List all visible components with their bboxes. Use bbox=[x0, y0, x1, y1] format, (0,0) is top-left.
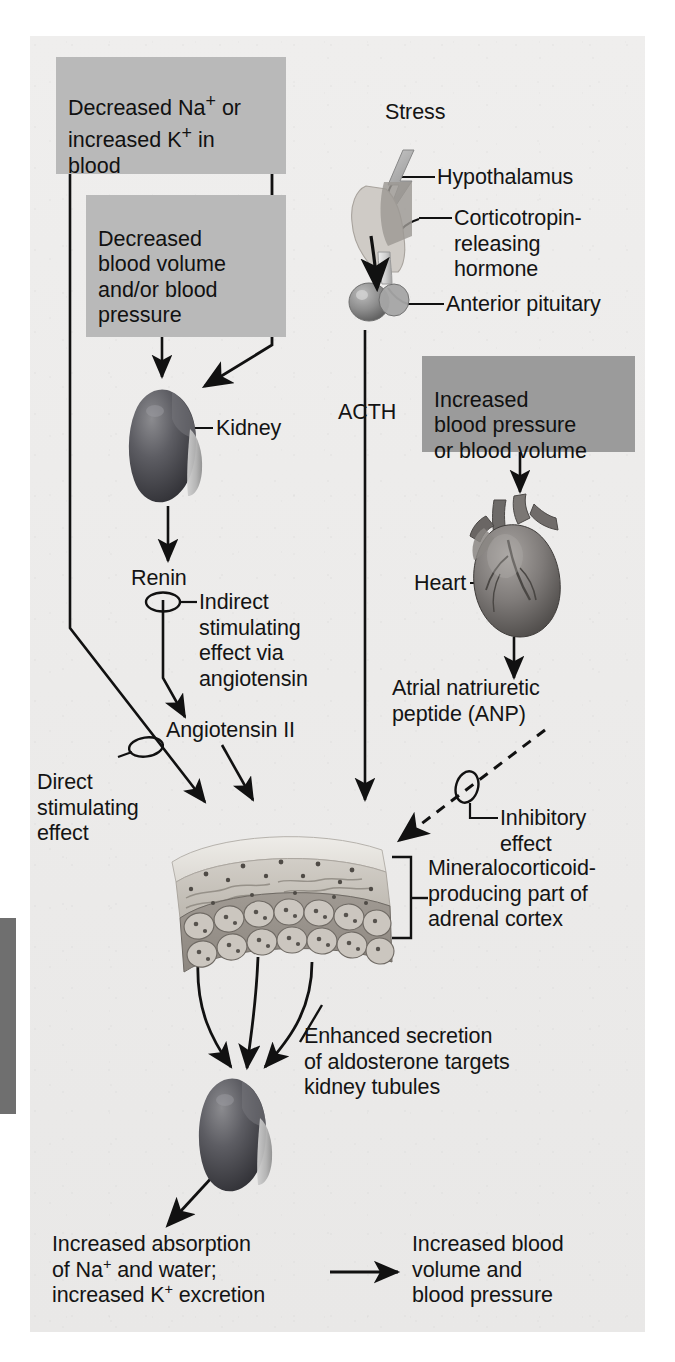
arrow-angiotensin-to-adrenal bbox=[222, 745, 253, 800]
label-adrenal-cortex: Mineralocorticoid- producing part of adr… bbox=[428, 856, 596, 933]
box-text-increased-bp: Increased blood pressure or blood volume bbox=[434, 388, 587, 463]
label-kidney-top: Kidney bbox=[216, 416, 281, 442]
box-text-blood-volume: Decreased blood volume and/or blood pres… bbox=[98, 227, 226, 328]
label-angiotensin-ii: Angiotensin II bbox=[166, 718, 295, 744]
label-stress: Stress bbox=[385, 100, 445, 126]
decreased-sodium-increased-potassium-box: Decreased Na+ or increased K+ in blood bbox=[56, 57, 286, 174]
decreased-blood-volume-box: Decreased blood volume and/or blood pres… bbox=[86, 195, 286, 337]
label-corticotropin-releasing-hormone: Corticotropin- releasing hormone bbox=[454, 206, 582, 283]
label-increased-blood-volume: Increased blood volume and blood pressur… bbox=[412, 1232, 564, 1309]
label-anterior-pituitary: Anterior pituitary bbox=[446, 292, 601, 318]
direct-effect-marker bbox=[128, 735, 164, 759]
label-indirect-stimulating-effect: Indirect stimulating effect via angioten… bbox=[199, 590, 308, 692]
arrow-adrenal-to-kidney-2 bbox=[247, 957, 258, 1068]
heart-illustration bbox=[470, 494, 560, 637]
bracket-adrenal-cortex bbox=[392, 857, 428, 938]
arrow-adrenal-to-kidney-1 bbox=[198, 962, 231, 1067]
inhibitory-effect-marker bbox=[452, 769, 482, 806]
kidney-illustration-bottom bbox=[199, 1079, 272, 1192]
arrow-renin-to-angiotensin bbox=[146, 593, 197, 718]
label-direct-stimulating-effect: Direct stimulating effect bbox=[37, 770, 139, 847]
arrow-kidney-to-absorption bbox=[168, 1174, 215, 1225]
label-inhibitory-effect: Inhibitory effect bbox=[500, 806, 586, 857]
label-acth: ACTH bbox=[338, 400, 396, 426]
figure-page: Decreased Na+ or increased K+ in blood D… bbox=[0, 0, 675, 1362]
box-text-sodium-potassium: Decreased Na+ or increased K+ in blood bbox=[68, 96, 241, 178]
hypothalamus-pituitary-illustration bbox=[349, 150, 414, 321]
label-heart: Heart bbox=[414, 571, 466, 597]
increased-blood-pressure-box: Increased blood pressure or blood volume bbox=[422, 356, 635, 452]
adrenal-cortex-illustration bbox=[172, 837, 396, 972]
label-atrial-natriuretic-peptide: Atrial natriuretic peptide (ANP) bbox=[392, 676, 540, 727]
label-enhanced-secretion: Enhanced secretion of aldosterone target… bbox=[304, 1024, 510, 1101]
kidney-illustration-top bbox=[129, 390, 202, 503]
label-renin: Renin bbox=[131, 566, 187, 592]
label-increased-absorption: Increased absorption of Na+ and water; i… bbox=[52, 1232, 265, 1309]
label-hypothalamus: Hypothalamus bbox=[437, 165, 573, 191]
